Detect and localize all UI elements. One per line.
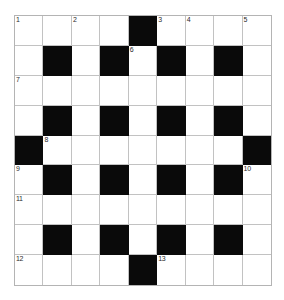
block-cell	[43, 165, 71, 195]
block-cell	[214, 225, 242, 255]
letter-cell[interactable]	[43, 16, 71, 46]
letter-cell[interactable]: 8	[43, 136, 71, 166]
block-cell	[100, 165, 128, 195]
block-cell	[129, 16, 157, 46]
block-cell	[157, 165, 185, 195]
letter-cell[interactable]	[100, 195, 128, 225]
block-cell	[100, 106, 128, 136]
letter-cell[interactable]	[15, 106, 43, 136]
cell-number: 5	[244, 16, 248, 24]
letter-cell[interactable]	[157, 136, 185, 166]
letter-cell[interactable]: 7	[15, 76, 43, 106]
block-cell	[157, 225, 185, 255]
cell-number: 10	[244, 165, 251, 173]
letter-cell[interactable]	[72, 76, 100, 106]
block-cell	[15, 136, 43, 166]
letter-cell[interactable]	[43, 195, 71, 225]
letter-cell[interactable]	[214, 16, 242, 46]
letter-cell[interactable]	[243, 106, 271, 136]
crossword-puzzle: 12345678910111213	[0, 0, 284, 300]
letter-cell[interactable]: 10	[243, 165, 271, 195]
letter-cell[interactable]: 6	[129, 46, 157, 76]
letter-cell[interactable]	[186, 255, 214, 285]
block-cell	[43, 225, 71, 255]
letter-cell[interactable]	[129, 165, 157, 195]
crossword-grid[interactable]: 12345678910111213	[14, 15, 272, 286]
letter-cell[interactable]	[186, 76, 214, 106]
block-cell	[43, 106, 71, 136]
cell-number: 7	[16, 76, 20, 84]
letter-cell[interactable]: 5	[243, 16, 271, 46]
block-cell	[129, 255, 157, 285]
letter-cell[interactable]: 4	[186, 16, 214, 46]
letter-cell[interactable]	[243, 255, 271, 285]
cell-number: 6	[130, 46, 134, 54]
letter-cell[interactable]	[186, 46, 214, 76]
block-cell	[43, 46, 71, 76]
letter-cell[interactable]	[214, 136, 242, 166]
letter-cell[interactable]	[15, 225, 43, 255]
letter-cell[interactable]: 12	[15, 255, 43, 285]
letter-cell[interactable]	[72, 165, 100, 195]
letter-cell[interactable]	[186, 225, 214, 255]
cell-number: 4	[187, 16, 191, 24]
letter-cell[interactable]	[214, 255, 242, 285]
block-cell	[243, 136, 271, 166]
letter-cell[interactable]	[214, 195, 242, 225]
letter-cell[interactable]: 2	[72, 16, 100, 46]
letter-cell[interactable]	[100, 76, 128, 106]
letter-cell[interactable]: 11	[15, 195, 43, 225]
cell-number: 13	[158, 255, 165, 263]
letter-cell[interactable]: 1	[15, 16, 43, 46]
cell-number: 3	[158, 16, 162, 24]
block-cell	[214, 106, 242, 136]
letter-cell[interactable]	[186, 165, 214, 195]
letter-cell[interactable]	[72, 195, 100, 225]
letter-cell[interactable]	[43, 255, 71, 285]
block-cell	[214, 46, 242, 76]
block-cell	[100, 46, 128, 76]
letter-cell[interactable]	[157, 195, 185, 225]
letter-cell[interactable]	[43, 76, 71, 106]
letter-cell[interactable]	[186, 195, 214, 225]
letter-cell[interactable]	[72, 225, 100, 255]
cell-number: 2	[73, 16, 77, 24]
letter-cell[interactable]	[15, 46, 43, 76]
letter-cell[interactable]: 9	[15, 165, 43, 195]
letter-cell[interactable]	[214, 76, 242, 106]
letter-cell[interactable]	[100, 136, 128, 166]
letter-cell[interactable]	[243, 225, 271, 255]
letter-cell[interactable]	[129, 106, 157, 136]
letter-cell[interactable]	[129, 76, 157, 106]
letter-cell[interactable]	[72, 106, 100, 136]
cell-number: 1	[16, 16, 20, 24]
letter-cell[interactable]	[72, 136, 100, 166]
letter-cell[interactable]	[243, 195, 271, 225]
letter-cell[interactable]	[186, 106, 214, 136]
cell-number: 12	[16, 255, 23, 263]
letter-cell[interactable]	[243, 46, 271, 76]
letter-cell[interactable]	[100, 16, 128, 46]
cell-number: 9	[16, 165, 20, 173]
letter-cell[interactable]	[100, 255, 128, 285]
letter-cell[interactable]	[72, 46, 100, 76]
letter-cell[interactable]	[129, 195, 157, 225]
letter-cell[interactable]: 13	[157, 255, 185, 285]
letter-cell[interactable]	[129, 136, 157, 166]
block-cell	[157, 106, 185, 136]
letter-cell[interactable]	[157, 76, 185, 106]
block-cell	[100, 225, 128, 255]
letter-cell[interactable]: 3	[157, 16, 185, 46]
block-cell	[157, 46, 185, 76]
cell-number: 8	[44, 136, 48, 144]
letter-cell[interactable]	[72, 255, 100, 285]
block-cell	[214, 165, 242, 195]
cell-number: 11	[16, 195, 23, 203]
letter-cell[interactable]	[243, 76, 271, 106]
letter-cell[interactable]	[186, 136, 214, 166]
letter-cell[interactable]	[129, 225, 157, 255]
